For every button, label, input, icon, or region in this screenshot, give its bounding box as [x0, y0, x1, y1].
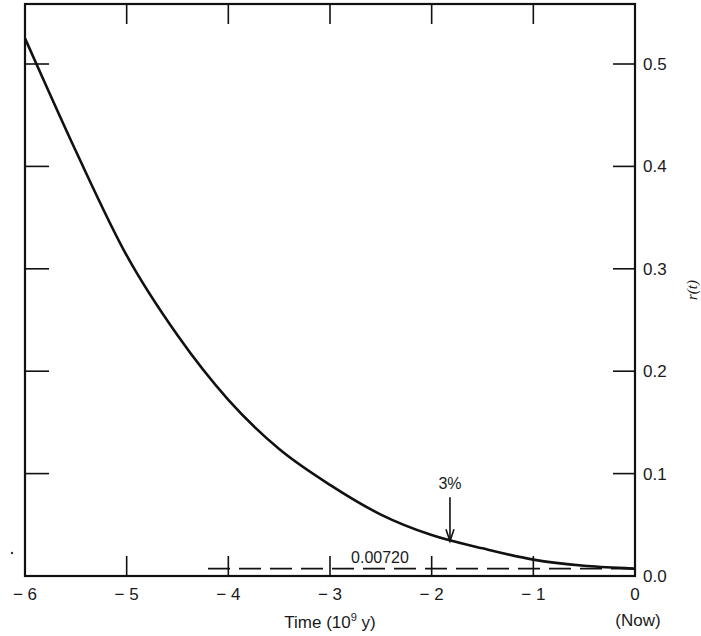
y-tick-label: 0.4 [643, 157, 667, 176]
x-tick-label: − 3 [318, 585, 342, 604]
annotations: 3%0.00720 [351, 475, 461, 565]
y-tick-label: 0.1 [643, 465, 667, 484]
chart-canvas: − 6− 5− 4− 3− 2− 10 0.00.10.20.30.40.5 3… [0, 0, 701, 636]
x-now-label: (Now) [615, 611, 660, 630]
annotation-3-percent: 3% [438, 475, 461, 492]
curve-r-t [25, 38, 635, 568]
annotation-value-0-00720: 0.00720 [351, 549, 409, 566]
y-tick-label: 0.3 [643, 260, 667, 279]
x-tick-label: − 5 [115, 585, 139, 604]
axis-ticks [25, 4, 635, 576]
y-axis-label: r(t) [684, 280, 701, 300]
x-axis-label: Time (109 y) [284, 611, 375, 632]
x-tick-label: − 1 [521, 585, 545, 604]
y-tick-labels: 0.00.10.20.30.40.5 [643, 55, 667, 586]
plot-frame [25, 4, 635, 576]
stray-dot [11, 552, 13, 554]
x-tick-labels: − 6− 5− 4− 3− 2− 10 [13, 585, 640, 604]
x-tick-label: − 6 [13, 585, 37, 604]
y-tick-label: 0.5 [643, 55, 667, 74]
x-tick-label: 0 [630, 585, 639, 604]
y-tick-label: 0.0 [643, 567, 667, 586]
x-tick-label: − 4 [216, 585, 240, 604]
x-tick-label: − 2 [420, 585, 444, 604]
y-tick-label: 0.2 [643, 362, 667, 381]
data-series [25, 38, 635, 568]
